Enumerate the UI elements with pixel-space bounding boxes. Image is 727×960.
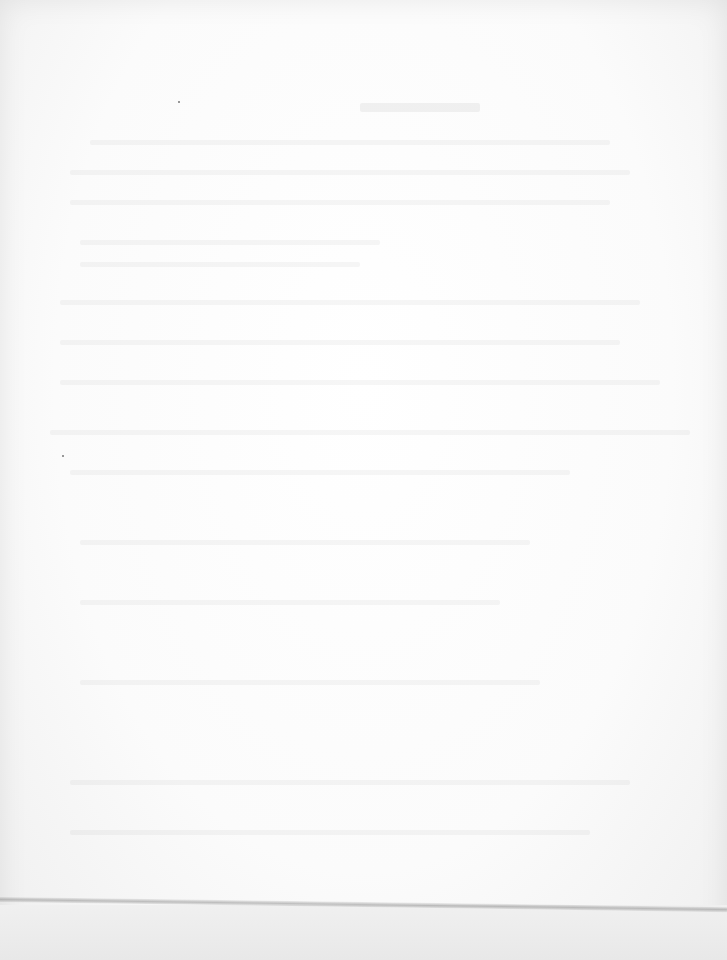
faded-text-line [60, 300, 640, 305]
faded-text-line [80, 240, 380, 245]
faded-text-line [90, 140, 610, 145]
faded-text-line [70, 200, 610, 205]
faded-text-line [80, 262, 360, 267]
faded-text-line [60, 340, 620, 345]
faded-title [360, 103, 480, 112]
faded-text-line [70, 830, 590, 835]
faded-text-line [80, 680, 540, 685]
scan-speck [178, 101, 180, 103]
page-bottom-strip [0, 905, 727, 960]
faded-text-line [70, 170, 630, 175]
faded-text-line [80, 600, 500, 605]
faded-text-line [70, 470, 570, 475]
scan-speck [62, 455, 64, 457]
faded-text-line [70, 780, 630, 785]
scanned-page [0, 0, 727, 960]
faded-text-line [80, 540, 530, 545]
faded-text-line [50, 430, 690, 435]
faded-text-line [60, 380, 660, 385]
